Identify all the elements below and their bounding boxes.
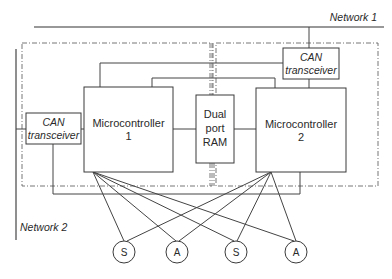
link-mc2-s2 [237,172,271,241]
dual-controller-can-diagram: Network 1 Network 2 CAN transceiver [0,0,392,279]
link-mc2-a2 [271,172,296,241]
can-transceiver-1-line1: CAN [42,116,65,128]
can-transceiver-2-line2: transceiver [285,64,337,76]
network-2-label: Network 2 [20,221,67,233]
wire-can2-mc1 [100,63,283,87]
network-1-label: Network 1 [330,11,377,23]
microcontroller-2: Microcontroller 2 [256,88,346,172]
can-transceiver-2: CAN transceiver [283,48,339,79]
link-mc2-s1 [127,172,271,241]
device-actuator-1: A [166,241,188,263]
can-transceiver-2-line1: CAN [300,51,323,63]
microcontroller-1-line2: 1 [125,130,131,142]
microcontroller-2-line1: Microcontroller [265,118,337,130]
mc2-device-links [127,172,296,241]
dual-port-ram: Dual port RAM [196,43,234,186]
can-transceiver-1: CAN transceiver [26,113,81,144]
dual-port-ram-line1: Dual [204,108,227,120]
device-actuator-2: A [285,241,307,263]
can-transceiver-1-line2: transceiver [28,129,80,141]
device-actuator-1-label: A [174,247,181,258]
microcontroller-1: Microcontroller 1 [84,87,173,172]
link-mc1-s1 [93,172,124,241]
microcontroller-1-line1: Microcontroller [92,117,164,129]
microcontroller-2-line2: 2 [298,131,304,143]
device-actuator-2-label: A [293,247,300,258]
device-sensor-2-label: S [233,247,240,258]
dual-port-ram-line3: RAM [203,136,227,148]
device-sensor-1-label: S [121,247,128,258]
device-sensor-1: S [113,241,135,263]
device-sensor-2: S [225,241,247,263]
dual-port-ram-line2: port [206,122,225,134]
